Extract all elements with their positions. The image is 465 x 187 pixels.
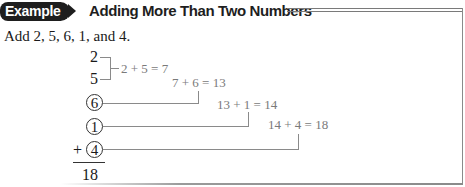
step-2: 7 + 6 = 13: [172, 75, 226, 90]
badge-arrow-icon: [68, 4, 76, 18]
plus-sign: +: [73, 141, 82, 159]
step-4: 14 + 4 = 18: [268, 117, 328, 132]
bracket-top: [100, 57, 110, 58]
bottom-border: [60, 183, 463, 185]
connector-1: [103, 126, 249, 127]
step-1: 2 + 5 = 7: [121, 61, 168, 76]
header-rule-top: [287, 8, 463, 9]
right-border: [462, 8, 463, 184]
connector-4: [103, 149, 299, 150]
problem-statement: Add 2, 5, 6, 1, and 4.: [4, 27, 130, 45]
addend-2: 2: [90, 48, 98, 66]
connector-1-up: [248, 112, 249, 127]
step-3: 13 + 1 = 14: [217, 97, 277, 112]
connector-6: [103, 103, 199, 104]
circled-addend-1: 1: [86, 118, 103, 135]
circled-addend-4: 4: [86, 141, 103, 158]
sum-underline: [73, 162, 105, 163]
circled-addend-6: 6: [86, 94, 103, 111]
example-title: Adding More Than Two Numbers: [89, 2, 312, 20]
bracket-bottom: [100, 79, 110, 80]
sum-result: 18: [82, 166, 98, 184]
connector-4-up: [298, 134, 299, 150]
addend-5: 5: [90, 70, 98, 88]
header-rule-bottom: [287, 11, 463, 12]
bracket-connector: [110, 68, 119, 69]
example-badge: Example 2: [0, 2, 70, 21]
connector-6-up: [198, 91, 199, 104]
